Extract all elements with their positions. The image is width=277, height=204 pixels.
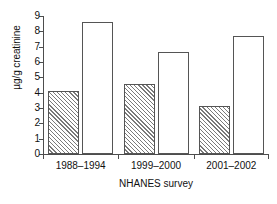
y-tick-label: 8 [28,25,40,36]
y-tick-label: 4 [28,87,40,98]
y-tick-label: 7 [28,41,40,52]
x-tick-mark [194,155,195,159]
y-tick-label: 1 [28,133,40,144]
bar-open-1 [82,22,113,154]
y-axis-line [43,16,44,155]
y-tick-label: 2 [28,117,40,128]
y-tick-label: 3 [28,102,40,113]
x-tick-mark [268,155,269,159]
x-group-label: 1999–2000 [118,160,193,172]
bar-open-3 [233,36,264,154]
y-tick-label: 9 [28,10,40,21]
y-tick-label: 5 [28,71,40,82]
x-axis-title: NHANES survey [43,178,269,190]
y-axis-title: µg/g creatinine [11,0,22,118]
bar-chart-figure: µg/g creatinine 0123456789 1988–19941999… [0,0,277,204]
x-group-label: 1988–1994 [43,160,118,172]
x-group-label: 2001–2002 [194,160,269,172]
y-tick-label: 0 [28,148,40,159]
plot-area: 0123456789 1988–19941999–20002001–2002 [43,16,269,155]
bar-hatched-2 [124,84,155,154]
bar-hatched-3 [199,106,230,154]
bar-open-2 [158,52,189,154]
x-tick-mark [118,155,119,159]
bar-hatched-1 [48,91,79,154]
x-axis-line [43,154,269,155]
y-tick-label: 6 [28,56,40,67]
x-tick-mark [43,155,44,159]
